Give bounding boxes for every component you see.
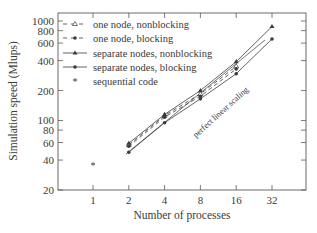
svg-text:one node, blocking: one node, blocking (93, 33, 174, 44)
series-layer: * (91, 24, 275, 171)
speedup-chart: 204060801002004006008001000 12481632 Sim… (0, 0, 317, 233)
legend-item-separate-nodes-blocking: separate nodes, blocking (63, 62, 197, 73)
triangle-marker-icon (73, 51, 78, 55)
x-tick-label: 2 (126, 194, 132, 206)
x-tick-label: 32 (267, 194, 278, 206)
y-tick-label: 100 (38, 114, 55, 126)
x-tick-label: 8 (198, 194, 204, 206)
y-tick-label: 40 (43, 154, 55, 166)
svg-text:one node, nonblocking: one node, nonblocking (93, 19, 190, 30)
legend-item-one-node-nonblocking: one node, nonblocking (63, 19, 190, 30)
x-tick-label: 4 (162, 194, 168, 206)
y-tick-label: 1000 (32, 15, 55, 27)
y-tick-label: 200 (38, 85, 55, 97)
y-tick-label: 60 (43, 137, 55, 149)
x-tick-label: 16 (231, 194, 243, 206)
svg-text:separate nodes, blocking: separate nodes, blocking (93, 62, 197, 73)
triangle-open-marker-icon (73, 22, 78, 26)
series-sequential-code: * (91, 160, 96, 171)
legend-item-separate-nodes-nonblocking: separate nodes, nonblocking (63, 48, 213, 59)
dot-marker-icon (73, 36, 77, 40)
x-tick-label: 1 (90, 194, 96, 206)
legend-item-sequential-code: * sequential code (73, 76, 159, 87)
svg-text:sequential code: sequential code (93, 76, 158, 87)
y-tick-label: 600 (38, 37, 55, 49)
y-axis-label: Simulation speed (Mlups) (7, 41, 20, 161)
star-marker-icon: * (73, 76, 78, 87)
dot-marker-icon (73, 65, 77, 69)
legend-item-one-node-blocking: one node, blocking (63, 33, 174, 44)
svg-text:separate nodes, nonblocking: separate nodes, nonblocking (93, 48, 213, 59)
svg-text:*: * (91, 160, 96, 171)
x-axis-label: Number of processes (133, 209, 231, 222)
legend: one node, nonblocking one node, blocking… (63, 19, 213, 87)
y-tick-label: 20 (43, 184, 55, 196)
y-tick-label: 400 (38, 55, 55, 67)
